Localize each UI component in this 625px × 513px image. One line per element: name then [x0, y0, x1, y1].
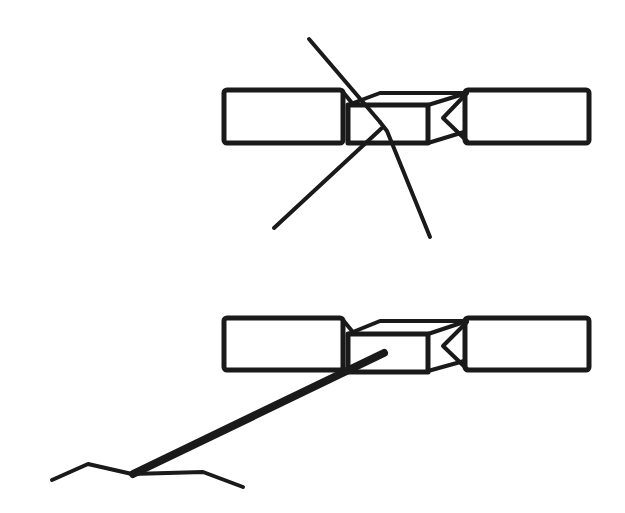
right-panel	[465, 90, 589, 143]
diagram-canvas	[0, 0, 625, 513]
right-panel	[465, 318, 589, 370]
left-panel	[224, 90, 343, 143]
box-bottom-edge	[428, 361, 464, 371]
figure-bottom	[52, 318, 589, 487]
figure-top	[224, 39, 589, 237]
box-bottom-edge	[428, 132, 464, 143]
left-panel	[224, 318, 343, 370]
rod-curved	[380, 122, 430, 237]
